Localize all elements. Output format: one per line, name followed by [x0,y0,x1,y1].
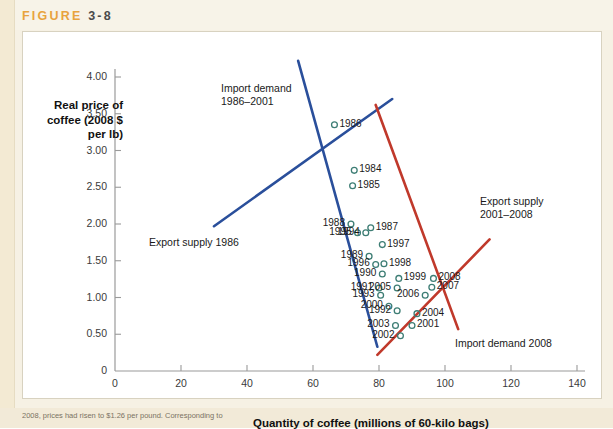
data-point-marker [394,308,400,314]
annotation-export-supply-1986: Export supply 1986 [149,236,239,249]
y-axis-title: Real price of coffee (2008 $ per lb) [41,98,123,142]
data-point-marker [368,225,374,231]
x-tick-label: 20 [166,377,196,389]
data-point-label: 2001 [417,318,439,329]
annotation-import-demand-1986-2001: Import demand 1986–2001 [221,82,292,108]
x-tick-label: 40 [232,377,262,389]
data-point-marker [409,323,415,329]
x-tick-label: 120 [496,377,526,389]
figure-caption: 2008, prices had risen to $1.26 per poun… [22,411,602,427]
data-point-label: 1986 [339,118,361,129]
data-point-label: 1994 [338,226,360,237]
x-tick-label: 0 [100,377,130,389]
data-point-marker [351,167,357,173]
y-tick-label: 0 [73,364,107,376]
chart-panel: Real price of coffee (2008 $ per lb) Qua… [22,31,602,399]
data-point-marker [378,292,384,298]
data-point-marker [431,275,437,281]
y-tick-label: 4.00 [73,70,107,82]
x-tick-label: 60 [298,377,328,389]
annotation-export-supply-2001-2008: Export supply 2001–2008 [480,195,544,221]
data-point-label: 2004 [422,307,444,318]
data-point-label: 1987 [376,221,398,232]
data-point-label: 2002 [372,329,394,340]
x-tick-label: 140 [562,377,592,389]
data-point-label: 1990 [354,267,376,278]
y-tick-label: 3.50 [73,107,107,119]
data-point-label: 2007 [437,280,459,291]
x-tick-label: 80 [364,377,394,389]
figure-title: FIGURE 3-8 [22,9,113,23]
y-tick-label: 0.50 [73,327,107,339]
data-point-marker [398,333,404,339]
data-point-marker [422,292,428,298]
data-point-label: 1997 [387,238,409,249]
data-point-label: 2006 [397,288,419,299]
data-point-marker [379,242,385,248]
y-tick-label: 1.50 [73,254,107,266]
y-tick-label: 2.00 [73,217,107,229]
data-point-marker [350,183,356,189]
left-margin-strip [0,0,15,428]
data-point-marker [332,122,338,128]
figure-title-label: FIGURE [22,9,82,23]
data-point-label: 1999 [404,271,426,282]
data-point-marker [393,323,399,329]
figure-title-number: 3-8 [88,9,113,23]
data-point-label: 1992 [369,304,391,315]
x-tick-label: 100 [430,377,460,389]
y-tick-label: 3.00 [73,144,107,156]
data-point-label: 1985 [358,179,380,190]
data-point-marker [396,275,402,281]
data-point-label: 1984 [359,163,381,174]
data-point-marker [381,261,387,267]
annotation-import-demand-2008: Import demand 2008 [455,337,552,350]
y-tick-label: 2.50 [73,180,107,192]
data-point-marker [429,284,435,290]
data-point-label: 1993 [352,288,374,299]
data-point-marker [379,271,385,277]
data-point-marker [363,230,369,236]
data-point-label: 1998 [389,257,411,268]
y-tick-label: 1.00 [73,291,107,303]
